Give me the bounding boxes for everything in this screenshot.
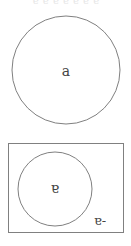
top-set-diagram: a [12,16,120,124]
universe-box [9,144,124,233]
venn-diagram: a ɐ ɐ- [0,0,131,246]
bottom-universe-diagram: ɐ ɐ- [9,144,124,233]
set-label: ɐ [51,180,59,196]
set-a-label: a [62,63,70,79]
complement-label: ɐ- [94,213,106,228]
